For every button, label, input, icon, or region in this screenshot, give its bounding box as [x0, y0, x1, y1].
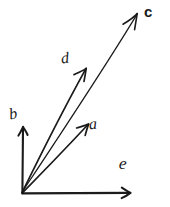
vector-label-a: a: [88, 116, 97, 133]
vector-diagram-figure: b e a d c: [0, 0, 170, 207]
vector-e-arrow: [22, 188, 130, 199]
vector-label-e: e: [118, 155, 127, 173]
vector-d-arrow: [22, 68, 86, 192]
vector-label-d: d: [60, 50, 70, 67]
vector-label-c: c: [144, 4, 152, 19]
vector-a-arrow: [23, 124, 89, 193]
vector-diagram-canvas: [0, 0, 170, 207]
